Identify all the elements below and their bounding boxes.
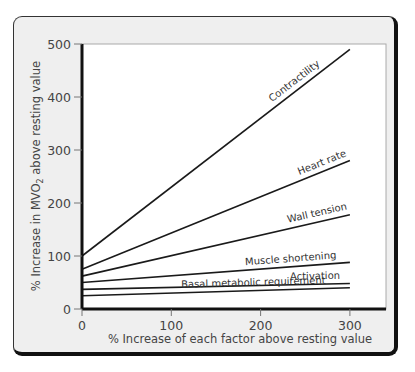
x-tick-label: 300 bbox=[338, 318, 362, 333]
y-tick-label: 500 bbox=[47, 37, 71, 52]
x-tick-label: 0 bbox=[78, 318, 86, 333]
x-axis-label: % Increase of each factor above resting … bbox=[108, 332, 372, 346]
x-ticks: 0100200300 bbox=[78, 309, 362, 333]
line-chart: ContractilityHeart rateWall tensionMuscl… bbox=[0, 0, 415, 372]
y-axis-label: % Increase in MVO2 above resting value bbox=[29, 61, 45, 291]
y-tick-label: 0 bbox=[63, 302, 71, 317]
y-tick-label: 300 bbox=[47, 143, 71, 158]
plot-area bbox=[82, 44, 386, 309]
y-tick-label: 200 bbox=[47, 196, 71, 211]
x-tick-label: 100 bbox=[159, 318, 183, 333]
x-tick-label: 200 bbox=[249, 318, 273, 333]
y-tick-label: 400 bbox=[47, 90, 71, 105]
y-tick-label: 100 bbox=[47, 249, 71, 264]
y-ticks: 0100200300400500 bbox=[47, 37, 82, 317]
